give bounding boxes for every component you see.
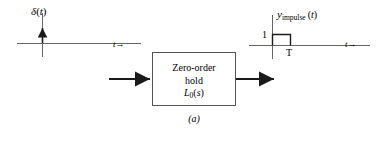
block-label-line-1: Zero-order: [153, 63, 235, 73]
zero-order-hold-figure: δ(t) t→ Zero-order hold L0(s) (a) yimpul…: [0, 0, 381, 141]
input-plot-y-axis-label: δ(t): [31, 6, 47, 17]
input-plot-axes: [17, 13, 141, 57]
output-plot-x-axis-label: t→: [345, 40, 357, 49]
block-transfer-function: L0(s): [153, 88, 235, 100]
paren-close: ): [201, 87, 204, 98]
arrow-right-icon: →: [116, 39, 125, 49]
output-subscript: impulse: [282, 13, 306, 22]
paren-close: ): [43, 5, 47, 17]
block-label-line-2: hold: [153, 76, 235, 86]
arrow-right-icon: →: [348, 39, 357, 49]
figure-caption: (a): [153, 114, 235, 124]
paren-close: ): [314, 9, 317, 20]
output-pulse-trace: [273, 35, 291, 46]
input-plot-x-axis-label: t→: [113, 40, 125, 49]
output-plot-y-axis-label: yimpulse(t): [277, 9, 317, 22]
output-plot-axes: [249, 15, 370, 59]
output-plot-amplitude-tick: 1: [262, 30, 267, 40]
output-plot-time-tick: T: [286, 48, 292, 58]
